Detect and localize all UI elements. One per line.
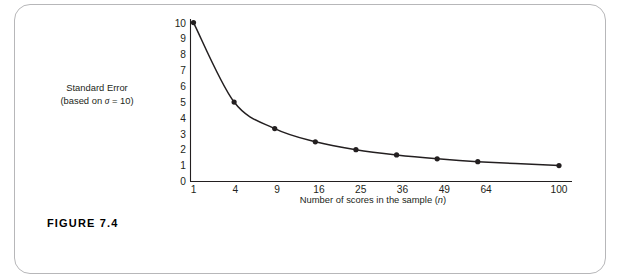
x-axis-title-prefix: Number of scores in the sample ( <box>300 194 438 205</box>
y-tick-label: 9 <box>180 33 186 44</box>
data-point <box>353 147 358 152</box>
y-axis-title-line2-prefix: (based on <box>60 95 104 106</box>
x-axis-title: Number of scores in the sample (n) <box>258 194 488 207</box>
x-tick-label: 64 <box>480 184 492 195</box>
x-tick-label: 4 <box>232 184 238 195</box>
x-tick-label: 16 <box>313 184 325 195</box>
y-tick-label: 8 <box>180 49 186 60</box>
y-tick-label: 6 <box>180 81 186 92</box>
y-tick-label: 10 <box>175 18 187 29</box>
data-point <box>313 139 318 144</box>
y-tick-label: 2 <box>180 144 186 155</box>
y-tick-label: 5 <box>180 97 186 108</box>
y-axis-title-line2-suffix: = 10) <box>109 95 133 106</box>
y-axis-title-line1: Standard Error <box>66 82 128 93</box>
x-tick-label: 49 <box>439 184 451 195</box>
y-tick-label: 4 <box>180 113 186 124</box>
figure-caption: FIGURE 7.4 <box>47 217 118 229</box>
x-tick-label: 25 <box>355 184 367 195</box>
series-markers <box>191 20 562 168</box>
x-axis-title-suffix: ) <box>443 194 446 205</box>
y-tick-label: 7 <box>180 65 186 76</box>
data-point <box>475 159 480 164</box>
x-tick-label: 9 <box>274 184 280 195</box>
data-point <box>394 152 399 157</box>
data-point <box>556 163 561 168</box>
data-point <box>191 20 196 25</box>
x-tick-label: 1 <box>191 184 197 195</box>
y-tick-label: 1 <box>180 160 186 171</box>
y-tick-label: 0 <box>180 176 186 187</box>
series-line <box>194 23 560 166</box>
data-point <box>232 99 237 104</box>
data-point <box>272 126 277 131</box>
x-tick-label: 100 <box>551 184 568 195</box>
x-tick-label: 36 <box>397 184 409 195</box>
data-point <box>435 156 440 161</box>
y-tick-label: 3 <box>180 129 186 140</box>
y-axis-title: Standard Error (based on σ = 10) <box>38 82 156 107</box>
